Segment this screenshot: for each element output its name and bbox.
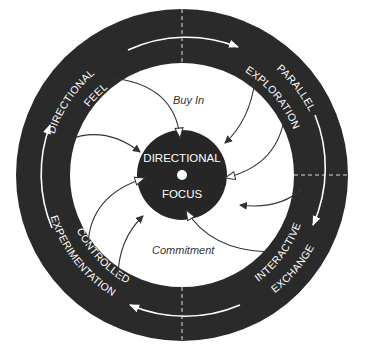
arrow-feel-to-focus [112,78,180,138]
arrow-exploration-to-focus [225,112,285,178]
buy-in-label: Buy In [173,94,204,106]
hub-label-line1: DIRECTIONAL [143,152,221,164]
directional-focus-diagram: DIRECTIONAL FOCUS DIRECTIONAL FEEL PARAL… [0,0,365,349]
commitment-label: Commitment [152,244,215,256]
center-hub: DIRECTIONAL FOCUS [137,130,227,220]
hub-label-line2: FOCUS [162,188,203,200]
arrow-feel-inner [68,135,140,152]
arrow-experimentation-to-focus [88,178,145,245]
arrow-exploration-inner [225,80,255,143]
